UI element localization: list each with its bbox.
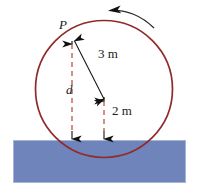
rotation-direction-arrow (110, 10, 154, 28)
point-p-label: P (59, 18, 67, 31)
chord-d-label: d (66, 83, 73, 96)
diagram-canvas (0, 0, 198, 195)
ground-block (14, 141, 186, 183)
radius-3m-label: 3 m (98, 47, 118, 60)
center-height-2m-label: 2 m (112, 104, 132, 117)
physics-diagram-figure: P d 3 m 2 m (0, 0, 198, 195)
